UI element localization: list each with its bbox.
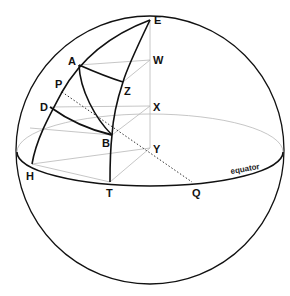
line-D-X [50, 106, 150, 107]
label-A: A [68, 55, 76, 67]
label-H: H [26, 170, 34, 182]
label-Q: Q [192, 187, 201, 199]
label-Z: Z [124, 85, 131, 97]
label-P: P [55, 78, 62, 90]
line-H-Y [32, 148, 150, 164]
line-Y-T [110, 148, 150, 182]
label-D: D [40, 101, 48, 113]
label-T: T [106, 187, 113, 199]
label-E: E [154, 14, 161, 26]
label-Y: Y [153, 143, 161, 155]
arc-E-T [110, 20, 150, 182]
celestial-sphere-diagram: E W A P Z D X B Y H T Q equator [0, 0, 290, 296]
dotted-line-P-Q [62, 92, 192, 182]
label-B: B [102, 137, 110, 149]
label-W: W [153, 54, 164, 66]
arc-A-Z [79, 65, 123, 82]
arc-A-B [79, 65, 112, 135]
label-X: X [153, 101, 161, 113]
label-equator: equator [230, 162, 260, 176]
arc-E-H [32, 20, 150, 164]
line-A-W [79, 60, 150, 65]
